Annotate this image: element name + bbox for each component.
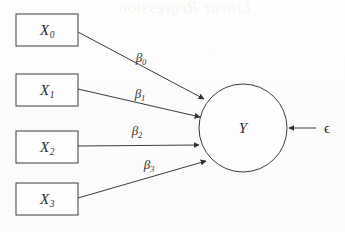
path-label-b2: β2 <box>132 124 143 137</box>
predictor-label-x1: X1 <box>40 83 54 98</box>
path-label-b1: β1 <box>135 87 146 100</box>
diagram-canvas: Linear Regression X0 X1 X2 X3 Y <box>0 0 345 232</box>
path-label-b3: β3 <box>144 158 155 171</box>
outcome-label-y: Y <box>239 121 247 136</box>
path-arrow-b3 <box>78 161 206 198</box>
error-label-epsilon: ϵ <box>324 121 330 136</box>
path-label-b0: β0 <box>136 51 147 64</box>
predictor-label-x2: X2 <box>40 140 54 155</box>
path-arrow-b2 <box>78 145 199 146</box>
predictor-label-x3: X3 <box>40 192 54 207</box>
predictor-label-x0: X0 <box>40 23 54 38</box>
